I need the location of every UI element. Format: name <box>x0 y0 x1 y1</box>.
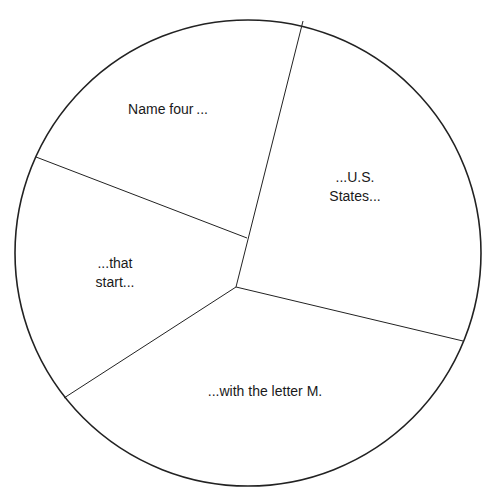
segment-label-left: ...that start... <box>80 254 150 292</box>
segment-label-right: ...U.S. States... <box>310 168 400 206</box>
label-line: ...U.S. <box>310 168 400 187</box>
pie-diagram <box>0 0 487 502</box>
outer-circle <box>15 20 481 486</box>
segment-label-top-left: Name four ... <box>118 100 218 119</box>
label-line: States... <box>310 187 400 206</box>
label-line: start... <box>80 273 150 292</box>
label-line: ...with the letter M. <box>190 382 340 401</box>
segment-label-bottom: ...with the letter M. <box>190 382 340 401</box>
label-line: Name four ... <box>118 100 218 119</box>
label-line: ...that <box>80 254 150 273</box>
